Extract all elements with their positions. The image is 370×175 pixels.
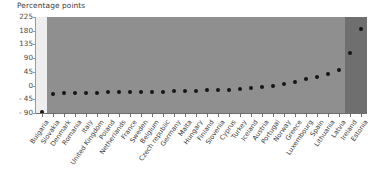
y-axis-tick-mark	[33, 86, 36, 87]
x-axis-tick-mark	[196, 114, 197, 117]
x-axis-tick-mark	[97, 114, 98, 117]
x-axis-tick-mark	[130, 114, 131, 117]
y-axis-tick-mark	[33, 31, 36, 32]
y-axis-tick-mark	[33, 99, 36, 100]
x-axis-tick-mark	[251, 114, 252, 117]
x-axis-tick-mark	[339, 114, 340, 117]
x-axis-tick-mark	[306, 114, 307, 117]
x-axis-tick-mark	[229, 114, 230, 117]
x-axis-tick-mark	[284, 114, 285, 117]
x-axis-tick-mark	[42, 114, 43, 117]
x-axis-tick-mark	[86, 114, 87, 117]
y-axis-tick-mark	[33, 44, 36, 45]
x-axis-tick-mark	[262, 114, 263, 117]
x-axis-tick-mark	[240, 114, 241, 117]
x-axis-tick-mark	[64, 114, 65, 117]
x-axis-tick-mark	[141, 114, 142, 117]
x-axis-tick-mark	[295, 114, 296, 117]
x-axis-tick-mark	[361, 114, 362, 117]
y-axis-tick-mark	[33, 58, 36, 59]
x-axis-tick-mark	[108, 114, 109, 117]
x-axis-tick-mark	[152, 114, 153, 117]
x-axis-tick-mark	[350, 114, 351, 117]
x-axis-tick-mark	[163, 114, 164, 117]
x-axis-tick-mark	[185, 114, 186, 117]
y-axis-tick-mark	[33, 113, 36, 114]
x-axis-tick-mark	[174, 114, 175, 117]
x-axis-tick-mark	[218, 114, 219, 117]
x-axis-tick-mark	[207, 114, 208, 117]
y-axis-tick-mark	[33, 17, 36, 18]
y-axis-tick-mark	[33, 72, 36, 73]
x-axis-tick-mark	[317, 114, 318, 117]
x-axis-tick-mark	[53, 114, 54, 117]
x-axis-tick-mark	[75, 114, 76, 117]
x-axis-tick-mark	[119, 114, 120, 117]
x-axis-tick-mark	[328, 114, 329, 117]
x-axis-tick-mark	[273, 114, 274, 117]
